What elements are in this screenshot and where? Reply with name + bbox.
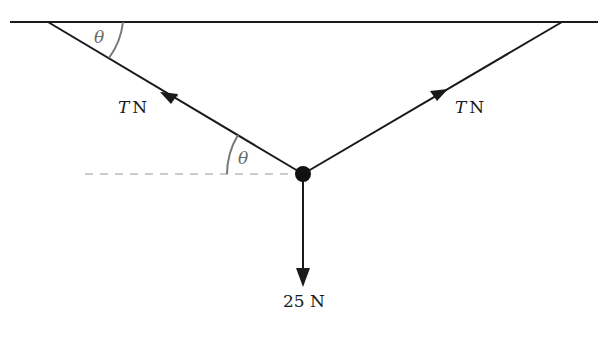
right-string <box>303 22 562 174</box>
angle-arc-ceiling <box>109 22 123 58</box>
weight-arrowhead <box>296 268 310 287</box>
left-string <box>48 22 303 174</box>
theta-label-top: θ <box>94 27 104 47</box>
right-tension-arrowhead <box>430 89 448 101</box>
force-diagram: θ θ TN TN 25 N <box>0 0 604 337</box>
theta-label-bottom: θ <box>238 148 248 168</box>
angle-arc-horizontal <box>227 135 238 174</box>
right-tension-label: TN <box>455 97 484 117</box>
weight-label: 25 N <box>283 291 325 311</box>
left-tension-label: TN <box>118 97 147 117</box>
particle-node <box>295 166 311 182</box>
